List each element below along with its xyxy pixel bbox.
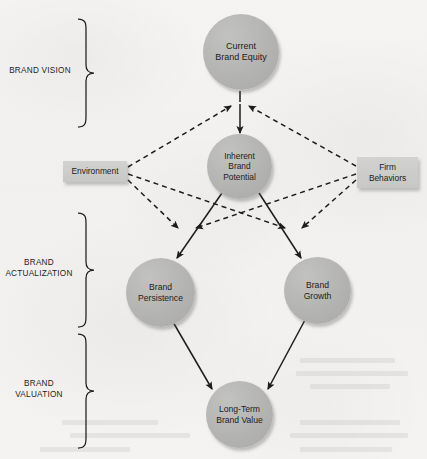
node-label: Current Brand Equity (215, 41, 267, 63)
diagram-canvas: BRAND VISION BRAND ACTUALIZATION BRAND V… (0, 0, 427, 459)
edge-potential-to-growth (259, 193, 301, 258)
node-label-line: Long-Term (216, 404, 263, 414)
node-firm-behaviors[interactable]: Firm Behaviors (357, 157, 418, 188)
node-label-line: Environment (71, 166, 118, 176)
node-label: Brand Growth (304, 280, 332, 301)
node-label-line: Growth (304, 291, 332, 301)
node-label-line: Firm (369, 162, 406, 172)
node-label: Brand Persistence (138, 282, 183, 303)
edge-potential-to-persistence (177, 193, 222, 258)
node-label: Environment (71, 166, 118, 176)
stage-label-line: ACTUALIZATION (2, 269, 76, 280)
node-label-line: Current (215, 41, 267, 52)
stage-label-line: BRAND VISION (6, 66, 74, 77)
node-long-term-brand-value[interactable]: Long-Term Brand Value (206, 381, 273, 448)
node-current-brand-equity[interactable]: Current Brand Equity (203, 14, 279, 90)
stage-label-line: BRAND (2, 258, 76, 269)
brace-brand-actualization (78, 213, 94, 327)
stage-label-brand-actualization: BRAND ACTUALIZATION (2, 258, 76, 280)
node-inherent-brand-potential[interactable]: Inherent Brand Potential (207, 134, 272, 199)
node-label: Firm Behaviors (369, 162, 406, 183)
stage-label-line: VALUATION (2, 390, 76, 401)
node-label-line: Persistence (138, 293, 183, 303)
node-label: Inherent Brand Potential (223, 151, 256, 182)
node-label-line: Brand Value (216, 415, 263, 425)
node-label-line: Behaviors (369, 173, 406, 183)
node-brand-persistence[interactable]: Brand Persistence (126, 258, 195, 327)
edge-growth-to-value (268, 320, 305, 389)
edge-firm-to-growth (302, 180, 356, 228)
edge-environment-to-persistence (128, 180, 178, 228)
node-label: Long-Term Brand Value (216, 404, 263, 425)
node-label-line: Brand Equity (215, 52, 267, 63)
node-label-line: Brand (223, 161, 256, 171)
stage-label-line: BRAND (2, 379, 76, 390)
stage-label-brand-vision: BRAND VISION (6, 66, 74, 77)
brace-brand-valuation (78, 334, 94, 448)
node-environment[interactable]: Environment (63, 161, 127, 182)
node-label-line: Brand (304, 280, 332, 290)
node-label-line: Inherent (223, 151, 256, 161)
brace-brand-vision (78, 19, 94, 127)
node-brand-growth[interactable]: Brand Growth (284, 257, 351, 324)
node-label-line: Potential (223, 172, 256, 182)
stage-label-brand-valuation: BRAND VALUATION (2, 379, 76, 401)
node-label-line: Brand (138, 282, 183, 292)
edge-persistence-to-value (173, 322, 212, 389)
